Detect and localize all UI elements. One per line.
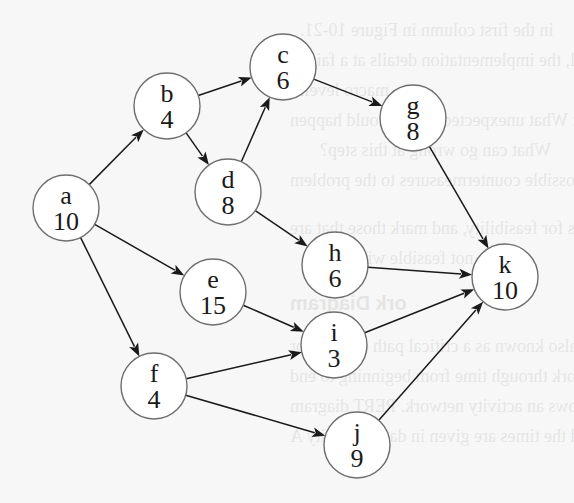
edge-line xyxy=(186,395,315,433)
node-duration: 3 xyxy=(328,344,341,373)
edge-a-to-e xyxy=(95,224,185,275)
edge-b-to-c xyxy=(198,77,251,96)
node-a: a10 xyxy=(33,175,99,241)
edge-f-to-j xyxy=(186,395,326,437)
edge-h-to-k xyxy=(368,267,472,278)
edge-b-to-d xyxy=(186,133,209,165)
edge-line xyxy=(379,310,476,420)
edge-c-to-g xyxy=(314,79,383,106)
edge-line xyxy=(368,267,461,274)
edge-d-to-h xyxy=(255,211,307,247)
edge-line xyxy=(95,224,175,270)
arrowhead-icon xyxy=(294,235,308,247)
node-label: d xyxy=(222,165,235,194)
node-duration: 4 xyxy=(161,105,174,134)
node-g: g8 xyxy=(380,85,446,151)
node-e: e15 xyxy=(180,259,246,325)
activity-network-diagram: a10b4c6d8e15f4g8h6i3j9k10 xyxy=(0,0,574,503)
edge-line xyxy=(89,137,136,184)
node-label: e xyxy=(207,265,219,294)
node-duration: 8 xyxy=(407,117,420,146)
edge-j-to-k xyxy=(379,302,483,420)
node-label: b xyxy=(161,79,174,108)
edge-e-to-i xyxy=(243,305,304,332)
arrowhead-icon xyxy=(478,235,489,249)
node-duration: 4 xyxy=(148,385,161,414)
edge-line xyxy=(243,305,294,327)
edge-line xyxy=(365,293,464,333)
node-k: k10 xyxy=(472,244,538,310)
edge-f-to-i xyxy=(186,350,302,378)
node-label: f xyxy=(150,359,159,388)
node-duration: 15 xyxy=(200,291,226,320)
edge-line xyxy=(241,107,265,162)
node-label: h xyxy=(329,238,342,267)
edge-line xyxy=(186,133,202,156)
node-label: a xyxy=(60,181,72,210)
node-h: h6 xyxy=(302,232,368,298)
edge-line xyxy=(430,147,484,239)
node-duration: 8 xyxy=(222,191,235,220)
edge-line xyxy=(198,81,241,96)
edge-i-to-k xyxy=(365,289,475,333)
node-i: i3 xyxy=(301,312,367,378)
nodes-layer: a10b4c6d8e15f4g8h6i3j9k10 xyxy=(33,34,538,478)
node-duration: 9 xyxy=(351,444,364,473)
node-label: g xyxy=(407,91,420,120)
node-duration: 10 xyxy=(492,276,518,305)
node-label: j xyxy=(352,418,360,447)
node-label: c xyxy=(277,40,289,69)
node-label: k xyxy=(499,250,512,279)
node-c: c6 xyxy=(250,34,316,100)
arrowhead-icon xyxy=(197,152,209,166)
node-b: b4 xyxy=(134,73,200,139)
node-label: i xyxy=(330,318,337,347)
node-f: f4 xyxy=(121,353,187,419)
edge-d-to-c xyxy=(241,97,269,162)
edge-line xyxy=(314,79,372,102)
node-d: d8 xyxy=(195,159,261,225)
arrowhead-icon xyxy=(171,265,185,276)
edge-line xyxy=(255,211,298,241)
node-duration: 6 xyxy=(277,66,290,95)
edge-a-to-b xyxy=(89,129,144,184)
node-duration: 10 xyxy=(53,207,79,236)
node-j: j9 xyxy=(324,412,390,478)
edge-g-to-k xyxy=(430,147,489,249)
edge-line xyxy=(186,355,291,379)
edge-line xyxy=(81,238,135,347)
node-duration: 6 xyxy=(329,264,342,293)
edge-a-to-f xyxy=(81,238,140,357)
